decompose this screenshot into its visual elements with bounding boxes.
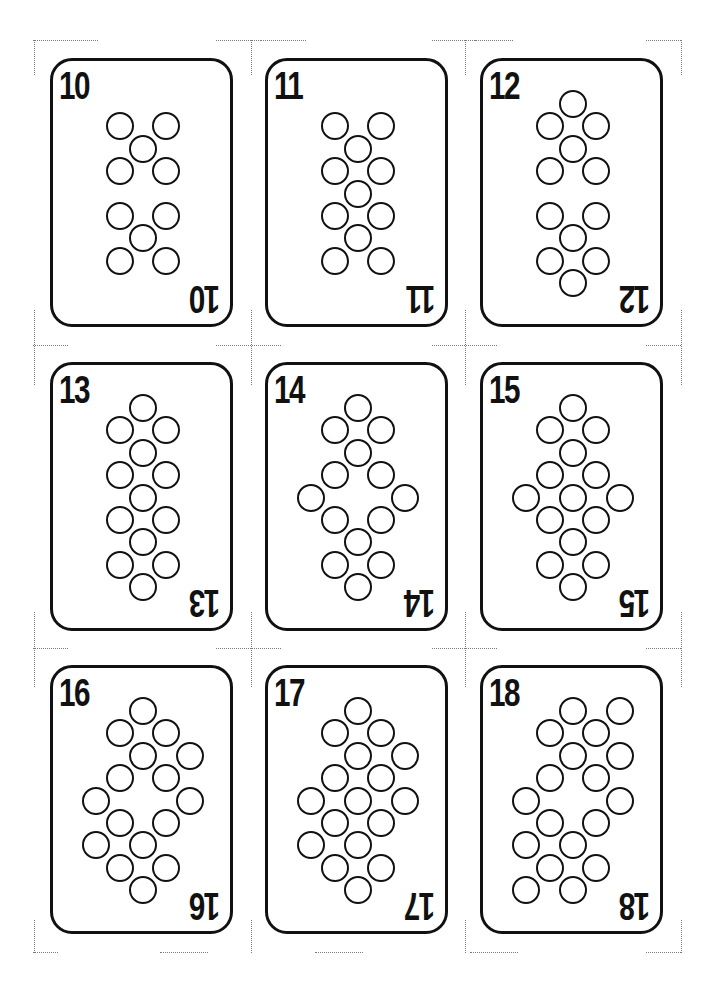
- playing-card-16: 1616: [50, 665, 233, 934]
- pip-layout: [268, 61, 445, 324]
- circle-pip-icon: [106, 112, 134, 140]
- circle-pip-icon: [129, 573, 157, 601]
- circle-pip-icon: [344, 697, 372, 725]
- circle-pip-icon: [606, 697, 634, 725]
- crop-mark-vertical: [251, 612, 252, 687]
- circle-pip-icon: [536, 461, 564, 489]
- circle-pip-icon: [129, 439, 157, 467]
- circle-pip-icon: [344, 394, 372, 422]
- circle-pip-icon: [321, 202, 349, 230]
- playing-card-17: 1717: [265, 665, 448, 934]
- playing-card-14: 1414: [265, 362, 448, 631]
- crop-mark-horizontal: [646, 952, 681, 953]
- circle-pip-icon: [129, 697, 157, 725]
- pip-layout: [483, 668, 660, 931]
- pip-layout: [483, 61, 660, 324]
- circle-pip-icon: [559, 831, 587, 859]
- circle-pip-icon: [129, 484, 157, 512]
- circle-pip-icon: [129, 876, 157, 904]
- circle-pip-icon: [536, 764, 564, 792]
- crop-mark-vertical: [465, 920, 466, 953]
- circle-pip-icon: [321, 764, 349, 792]
- circle-pip-icon: [367, 764, 395, 792]
- circle-pip-icon: [152, 416, 180, 444]
- circle-pip-icon: [606, 742, 634, 770]
- crop-mark-horizontal: [315, 952, 363, 953]
- circle-pip-icon: [321, 854, 349, 882]
- circle-pip-icon: [344, 573, 372, 601]
- circle-pip-icon: [367, 202, 395, 230]
- crop-mark-horizontal: [33, 345, 68, 346]
- playing-card-13: 1313: [50, 362, 233, 631]
- circle-pip-icon: [582, 247, 610, 275]
- circle-pip-icon: [559, 573, 587, 601]
- circle-pip-icon: [582, 719, 610, 747]
- circle-pip-icon: [391, 787, 419, 815]
- circle-pip-icon: [559, 528, 587, 556]
- circle-pip-icon: [344, 180, 372, 208]
- circle-pip-icon: [536, 157, 564, 185]
- crop-mark-vertical: [251, 310, 252, 385]
- crop-mark-horizontal: [160, 952, 208, 953]
- circle-pip-icon: [559, 876, 587, 904]
- circle-pip-icon: [82, 831, 110, 859]
- circle-pip-icon: [536, 416, 564, 444]
- circle-pip-icon: [582, 551, 610, 579]
- circle-pip-icon: [152, 157, 180, 185]
- circle-pip-icon: [321, 247, 349, 275]
- circle-pip-icon: [582, 202, 610, 230]
- circle-pip-icon: [106, 461, 134, 489]
- circle-pip-icon: [559, 269, 587, 297]
- circle-pip-icon: [582, 506, 610, 534]
- circle-pip-icon: [297, 484, 325, 512]
- circle-pip-icon: [321, 809, 349, 837]
- circle-pip-icon: [106, 809, 134, 837]
- crop-mark-horizontal: [33, 648, 68, 649]
- pip-layout: [53, 668, 230, 931]
- circle-pip-icon: [344, 528, 372, 556]
- circle-pip-icon: [106, 202, 134, 230]
- circle-pip-icon: [582, 416, 610, 444]
- circle-pip-icon: [512, 484, 540, 512]
- pip-layout: [268, 365, 445, 628]
- circle-pip-icon: [367, 506, 395, 534]
- circle-pip-icon: [367, 247, 395, 275]
- crop-mark-vertical: [465, 310, 466, 385]
- crop-mark-horizontal: [33, 40, 98, 41]
- crop-mark-vertical: [34, 40, 35, 75]
- circle-pip-icon: [559, 135, 587, 163]
- circle-pip-icon: [129, 831, 157, 859]
- circle-pip-icon: [82, 787, 110, 815]
- playing-card-18: 1818: [480, 665, 663, 934]
- circle-pip-icon: [106, 157, 134, 185]
- crop-mark-horizontal: [261, 40, 306, 41]
- circle-pip-icon: [152, 551, 180, 579]
- crop-mark-vertical: [34, 310, 35, 385]
- circle-pip-icon: [559, 90, 587, 118]
- card-sheet: 101011111212131314141515161617171818: [0, 0, 715, 987]
- circle-pip-icon: [606, 787, 634, 815]
- circle-pip-icon: [321, 461, 349, 489]
- circle-pip-icon: [321, 416, 349, 444]
- circle-pip-icon: [152, 854, 180, 882]
- circle-pip-icon: [582, 461, 610, 489]
- crop-mark-horizontal: [646, 40, 681, 41]
- crop-mark-horizontal: [646, 345, 681, 346]
- circle-pip-icon: [582, 157, 610, 185]
- crop-mark-vertical: [681, 920, 682, 953]
- crop-mark-horizontal: [216, 648, 281, 649]
- circle-pip-icon: [367, 112, 395, 140]
- circle-pip-icon: [321, 551, 349, 579]
- circle-pip-icon: [129, 394, 157, 422]
- circle-pip-icon: [391, 742, 419, 770]
- circle-pip-icon: [367, 157, 395, 185]
- circle-pip-icon: [512, 876, 540, 904]
- circle-pip-icon: [176, 742, 204, 770]
- circle-pip-icon: [536, 719, 564, 747]
- circle-pip-icon: [559, 439, 587, 467]
- circle-pip-icon: [321, 506, 349, 534]
- circle-pip-icon: [129, 224, 157, 252]
- crop-mark-horizontal: [475, 40, 513, 41]
- circle-pip-icon: [536, 506, 564, 534]
- circle-pip-icon: [344, 742, 372, 770]
